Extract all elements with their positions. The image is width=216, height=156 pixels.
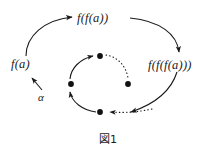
edge-ffa-to-fffa	[130, 18, 179, 52]
label-f-a: f(a)	[11, 58, 30, 71]
label-f-f-f-a: f(f(f(a)))	[148, 59, 192, 72]
edge-orbit-bottom-to-left	[70, 92, 96, 112]
edge-fa-to-ffa	[26, 17, 72, 56]
edge-orbit-right-to-bottom	[110, 109, 152, 112]
figure-caption: 図1	[0, 130, 216, 146]
orbit-point-top	[97, 53, 103, 59]
edge-alpha-to-fa	[32, 78, 42, 90]
orbit-point-bottom	[97, 109, 103, 115]
edge-orbit-left-to-top	[70, 56, 93, 79]
figure-canvas: f(a) f(f(a)) f(f(f(a))) α 図1	[0, 0, 216, 156]
edge-orbit-top-to-right	[106, 55, 128, 78]
orbit-point-right	[125, 81, 131, 87]
label-f-f-a: f(f(a))	[77, 12, 108, 25]
label-alpha: α	[38, 92, 44, 103]
edge-fffa-to-orbit	[131, 72, 177, 112]
orbit-point-left	[68, 81, 74, 87]
